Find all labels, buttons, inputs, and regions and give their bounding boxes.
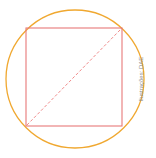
inscribed-square-diagram bbox=[0, 0, 156, 158]
circumscribed-circle bbox=[6, 10, 144, 148]
square-diagonal bbox=[27, 29, 121, 125]
illustration-credit: Ilustrações: DAE bbox=[138, 57, 144, 102]
